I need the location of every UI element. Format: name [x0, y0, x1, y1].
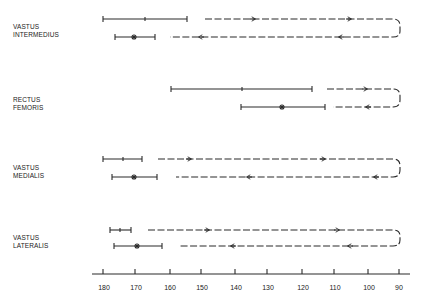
tick-label-180: 180 — [98, 284, 110, 291]
tick-label-100: 100 — [363, 284, 375, 291]
x-axis — [92, 269, 410, 274]
row-vastus-intermedius — [103, 16, 400, 40]
row-vastus-lateralis — [110, 227, 400, 249]
tick-label-170: 170 — [130, 284, 142, 291]
tick-label-150: 150 — [196, 284, 208, 291]
tick-label-160: 160 — [164, 284, 176, 291]
tick-label-110: 110 — [329, 284, 340, 291]
diagram-canvas — [0, 0, 423, 303]
tick-label-130: 130 — [262, 284, 274, 291]
tick-label-140: 140 — [230, 284, 242, 291]
row-rectus-femoris — [171, 86, 400, 110]
tick-label-120: 120 — [297, 284, 309, 291]
tick-label-90: 90 — [395, 284, 403, 291]
row-vastus-medialis — [103, 156, 400, 180]
